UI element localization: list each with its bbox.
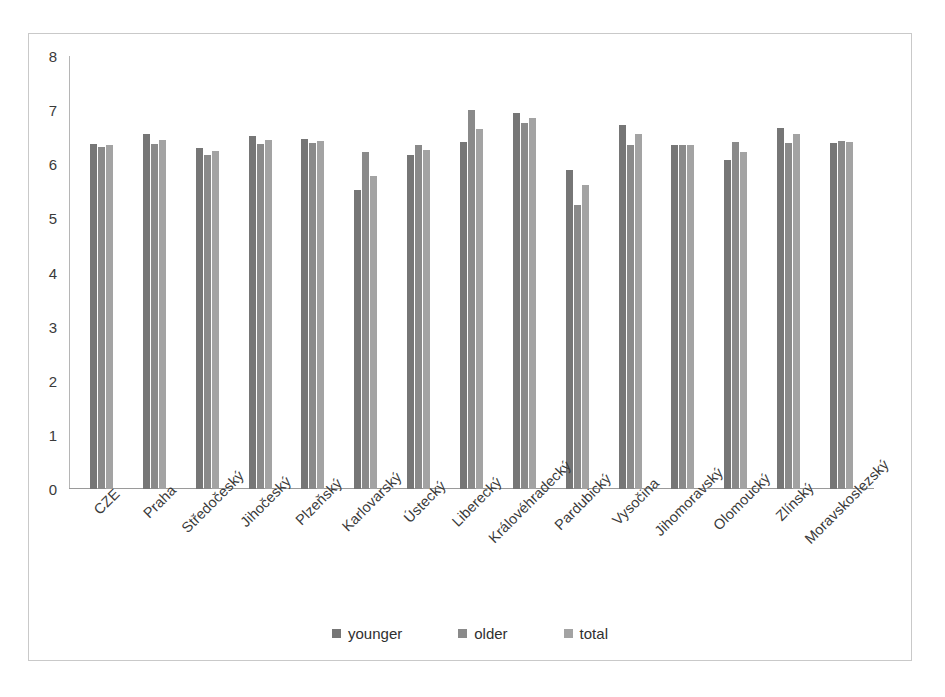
bar-older[interactable] [785, 143, 792, 489]
bar-group [815, 56, 868, 489]
bar-group [339, 56, 392, 489]
x-label-slot: Karlovarský [339, 492, 392, 622]
x-label-slot: Plzeňský [286, 492, 339, 622]
bar-group [604, 56, 657, 489]
bar-total[interactable] [159, 140, 166, 489]
bar-group [762, 56, 815, 489]
y-tick-label: 6 [49, 156, 57, 173]
legend-swatch-icon [458, 629, 467, 638]
bar-group [551, 56, 604, 489]
bar-younger[interactable] [830, 143, 837, 489]
x-label-slot: Olomoucký [709, 492, 762, 622]
bar-older[interactable] [151, 144, 158, 489]
bar-total[interactable] [476, 129, 483, 489]
legend-item-total[interactable]: total [564, 625, 608, 642]
bar-older[interactable] [98, 147, 105, 489]
x-label-slot: Vysočina [604, 492, 657, 622]
bar-total[interactable] [317, 141, 324, 489]
bar-group [498, 56, 551, 489]
bar-group [181, 56, 234, 489]
bar-group [656, 56, 709, 489]
bar-younger[interactable] [460, 142, 467, 489]
bar-younger[interactable] [513, 113, 520, 489]
bar-chart: 012345678 CZEPrahaStředočeskýJihočeskýPl… [28, 33, 912, 661]
y-tick-label: 0 [49, 481, 57, 498]
y-tick-label: 4 [49, 264, 57, 281]
legend-label: younger [348, 625, 402, 642]
bar-younger[interactable] [407, 155, 414, 489]
x-label-slot: Zlínský [762, 492, 815, 622]
y-tick-label: 1 [49, 426, 57, 443]
bar-younger[interactable] [90, 144, 97, 489]
bar-group [445, 56, 498, 489]
legend-swatch-icon [332, 629, 341, 638]
bar-total[interactable] [423, 150, 430, 489]
chart-legend: youngeroldertotal [29, 625, 911, 642]
legend-swatch-icon [564, 629, 573, 638]
bar-older[interactable] [362, 152, 369, 489]
x-label-slot: Středočeský [181, 492, 234, 622]
bar-total[interactable] [740, 152, 747, 489]
bar-younger[interactable] [249, 136, 256, 489]
bar-groups [69, 56, 874, 489]
x-label-slot: Praha [128, 492, 181, 622]
bar-total[interactable] [370, 176, 377, 489]
bar-younger[interactable] [671, 145, 678, 489]
bar-older[interactable] [521, 123, 528, 489]
bar-older[interactable] [679, 145, 686, 489]
bar-older[interactable] [415, 145, 422, 489]
bar-younger[interactable] [777, 128, 784, 489]
bar-older[interactable] [574, 205, 581, 489]
plot-area: 012345678 [69, 56, 874, 489]
legend-label: older [474, 625, 507, 642]
y-tick-label: 7 [49, 102, 57, 119]
bar-group [234, 56, 287, 489]
bar-younger[interactable] [196, 148, 203, 489]
x-label-slot: CZE [75, 492, 128, 622]
y-tick-label: 8 [49, 48, 57, 65]
bar-total[interactable] [846, 142, 853, 489]
bar-older[interactable] [309, 143, 316, 489]
x-label-slot: Ústecký [392, 492, 445, 622]
x-label-slot: Pardubický [551, 492, 604, 622]
legend-item-older[interactable]: older [458, 625, 507, 642]
bar-younger[interactable] [301, 139, 308, 489]
bar-older[interactable] [627, 145, 634, 489]
y-tick-label: 2 [49, 372, 57, 389]
bar-group [128, 56, 181, 489]
bar-total[interactable] [212, 151, 219, 489]
bar-total[interactable] [265, 140, 272, 489]
bar-total[interactable] [106, 145, 113, 489]
bar-group [392, 56, 445, 489]
bar-older[interactable] [468, 110, 475, 489]
bar-group [709, 56, 762, 489]
bar-total[interactable] [635, 134, 642, 489]
bar-younger[interactable] [566, 170, 573, 489]
bar-older[interactable] [257, 144, 264, 489]
x-label-slot: Královéhradecký [498, 492, 551, 622]
y-tick-label: 5 [49, 210, 57, 227]
bar-total[interactable] [793, 134, 800, 489]
bar-group [75, 56, 128, 489]
x-axis-tick-labels: CZEPrahaStředočeskýJihočeskýPlzeňskýKarl… [69, 492, 874, 622]
bar-younger[interactable] [724, 160, 731, 489]
x-label-slot: Jihočeský [234, 492, 287, 622]
bar-older[interactable] [838, 141, 845, 489]
bar-total[interactable] [582, 185, 589, 489]
x-label-slot: Jihomoravský [656, 492, 709, 622]
bar-total[interactable] [529, 118, 536, 489]
x-tick-label: CZE [91, 486, 123, 518]
legend-item-younger[interactable]: younger [332, 625, 402, 642]
x-label-slot: Moravskoslezský [815, 492, 868, 622]
bar-older[interactable] [732, 142, 739, 489]
bar-older[interactable] [204, 155, 211, 489]
y-tick-label: 3 [49, 318, 57, 335]
bar-younger[interactable] [619, 125, 626, 489]
bar-group [286, 56, 339, 489]
legend-label: total [580, 625, 608, 642]
bar-younger[interactable] [143, 134, 150, 489]
bar-total[interactable] [687, 145, 694, 489]
bar-younger[interactable] [354, 190, 361, 489]
x-label-slot: Liberecký [445, 492, 498, 622]
